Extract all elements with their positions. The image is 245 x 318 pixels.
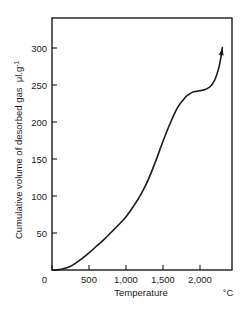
x-axis-unit: °C xyxy=(223,287,234,298)
x-tick-label-1000: 1,000 xyxy=(114,274,138,285)
desorption-curve-chart: 300 250 200 150 100 50 0 500 1,000 1,500… xyxy=(0,0,245,318)
y-tick-label-50: 50 xyxy=(36,228,47,239)
y-tick-label-200: 200 xyxy=(31,117,47,128)
y-axis-unit-base: μl.g xyxy=(13,67,24,83)
y-axis-title: Cumulative volume of desorbed gas xyxy=(13,87,24,239)
plot-background xyxy=(52,18,232,270)
y-tick-label-100: 100 xyxy=(31,191,47,202)
y-tick-label-250: 250 xyxy=(31,80,47,91)
x-tick-label-500: 500 xyxy=(81,274,97,285)
y-tick-label-0: 0 xyxy=(42,274,47,285)
x-tick-label-2000: 2,000 xyxy=(188,274,212,285)
x-tick-label-1500: 1,500 xyxy=(151,274,175,285)
y-tick-label-150: 150 xyxy=(31,154,47,165)
y-axis-unit-exponent: -1 xyxy=(13,61,20,67)
y-axis-title-group: Cumulative volume of desorbed gas μl.g-1 xyxy=(13,61,25,240)
x-axis-title: Temperature xyxy=(114,287,167,298)
svg-text:Cumulative volume of desorbed: Cumulative volume of desorbed gas μl.g-1 xyxy=(13,61,25,240)
figure-container: 300 250 200 150 100 50 0 500 1,000 1,500… xyxy=(0,0,245,318)
y-tick-label-300: 300 xyxy=(31,43,47,54)
